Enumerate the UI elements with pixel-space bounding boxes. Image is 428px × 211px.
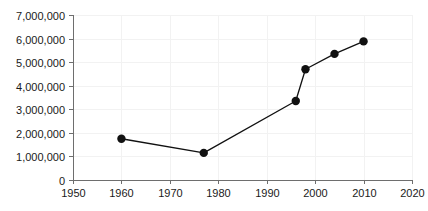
data-point-marker [359, 37, 367, 45]
x-axis-tick-label: 2020 [400, 187, 424, 199]
y-axis-tick-label: 7,000,000 [16, 10, 65, 22]
x-axis-tick-label: 2000 [303, 187, 327, 199]
data-point-marker [301, 65, 309, 73]
y-axis-tick-label: 5,000,000 [16, 57, 65, 69]
x-axis-tick-label: 1950 [61, 187, 85, 199]
data-point-marker [117, 135, 125, 143]
y-axis-tick-label: 4,000,000 [16, 81, 65, 93]
x-axis-tick-label: 1960 [109, 187, 133, 199]
x-axis-tick-label: 1980 [206, 187, 230, 199]
chart-canvas: 01,000,0002,000,0003,000,0004,000,0005,0… [0, 0, 428, 211]
line-chart: 01,000,0002,000,0003,000,0004,000,0005,0… [0, 0, 428, 211]
y-axis-tick-label: 2,000,000 [16, 128, 65, 140]
data-point-marker [200, 149, 208, 157]
y-axis-tick-label: 6,000,000 [16, 34, 65, 46]
x-axis-tick-label: 1970 [158, 187, 182, 199]
y-axis-tick-label: 1,000,000 [16, 151, 65, 163]
x-axis-tick-label: 1990 [255, 187, 279, 199]
data-point-marker [292, 97, 300, 105]
data-point-marker [330, 50, 338, 58]
y-axis-tick-label: 3,000,000 [16, 104, 65, 116]
x-axis-tick-label: 2010 [352, 187, 376, 199]
y-axis-tick-label: 0 [59, 175, 65, 187]
